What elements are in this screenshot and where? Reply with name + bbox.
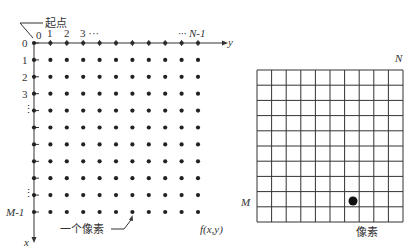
pixel-dot bbox=[32, 92, 36, 96]
m-label: M bbox=[240, 196, 251, 208]
pixel-dot bbox=[48, 159, 52, 163]
pixel-dot bbox=[114, 176, 118, 180]
row-label-2: 2 bbox=[22, 71, 28, 83]
y-axis-label: y bbox=[227, 36, 233, 48]
pixel-dot bbox=[98, 159, 102, 163]
pixel-dot bbox=[147, 193, 151, 197]
pixel-dot bbox=[32, 75, 36, 79]
pixel-dot bbox=[163, 75, 167, 79]
pixel-coordinate-panel: 起点 0 1 2 3 ··· ··· N-1 y x 0 1 2 3 ⋮ ⋮ M… bbox=[5, 17, 233, 248]
pixel-dot bbox=[196, 125, 200, 129]
pixel-dot bbox=[147, 109, 151, 113]
pixel-dot bbox=[180, 92, 184, 96]
pixel-dot bbox=[48, 75, 52, 79]
pixel-dot bbox=[163, 92, 167, 96]
pixel-dot bbox=[65, 58, 69, 62]
pixel-dot bbox=[32, 193, 36, 197]
pixel-dot bbox=[180, 159, 184, 163]
row-label-3: 3 bbox=[22, 88, 28, 100]
pixel-dot bbox=[81, 210, 85, 214]
x-axis-arrow-icon bbox=[32, 237, 37, 243]
pixel-dot bbox=[48, 176, 52, 180]
pixel-dot bbox=[147, 58, 151, 62]
pixel-dot bbox=[81, 193, 85, 197]
pixel-dot bbox=[196, 75, 200, 79]
pixel-dot bbox=[114, 210, 118, 214]
pixel-dot bbox=[81, 92, 85, 96]
image-coordinate-diagram: 起点 0 1 2 3 ··· ··· N-1 y x 0 1 2 3 ⋮ ⋮ M… bbox=[0, 0, 413, 248]
pixel-dot bbox=[98, 193, 102, 197]
pixel-dot bbox=[65, 142, 69, 146]
pixel-dot bbox=[147, 142, 151, 146]
pixel-dot bbox=[180, 125, 184, 129]
pixel-dot bbox=[32, 58, 36, 62]
pixel-dot bbox=[130, 159, 134, 163]
pixel-dot bbox=[114, 193, 118, 197]
pixel-dot bbox=[114, 159, 118, 163]
pixel-dot bbox=[65, 125, 69, 129]
col-label-3: 3 ··· bbox=[80, 27, 99, 39]
pixel-dot bbox=[180, 58, 184, 62]
pixel-dot bbox=[130, 125, 134, 129]
pixel-dot bbox=[147, 176, 151, 180]
pixel-grid-label: 像素 bbox=[356, 226, 378, 239]
pixel-dot bbox=[65, 193, 69, 197]
pixel-dot bbox=[130, 142, 134, 146]
pixel-grid bbox=[257, 70, 403, 222]
pixel-dot bbox=[81, 58, 85, 62]
pixel-dot bbox=[98, 75, 102, 79]
pixel-dot bbox=[98, 92, 102, 96]
row-label-m-1: M-1 bbox=[5, 206, 24, 218]
pixel-dot bbox=[180, 142, 184, 146]
pixel-dot bbox=[196, 176, 200, 180]
pixel-dot bbox=[65, 109, 69, 113]
pixel-dot bbox=[180, 193, 184, 197]
pixel-dot bbox=[48, 210, 52, 214]
pixel-dot bbox=[81, 142, 85, 146]
pixel-dot bbox=[163, 176, 167, 180]
pixel-dot bbox=[163, 109, 167, 113]
pixel-dot bbox=[196, 210, 200, 214]
pixel-dot bbox=[32, 109, 36, 113]
pixel-dot bbox=[130, 92, 134, 96]
pixel-dot bbox=[147, 125, 151, 129]
pixel-dot bbox=[48, 109, 52, 113]
pixel-dot bbox=[81, 109, 85, 113]
pixel-dot bbox=[32, 41, 36, 45]
pixel-dot bbox=[130, 193, 134, 197]
pixel-dot bbox=[114, 58, 118, 62]
pixel-dot bbox=[180, 210, 184, 214]
pixel-dot bbox=[180, 176, 184, 180]
pixel-dot bbox=[196, 193, 200, 197]
pixel-dot bbox=[114, 92, 118, 96]
pixel-dot bbox=[114, 109, 118, 113]
pixel-dot bbox=[196, 109, 200, 113]
pixel-dot bbox=[48, 125, 52, 129]
x-axis-label: x bbox=[23, 236, 29, 248]
pixel-dot bbox=[196, 159, 200, 163]
pixel-dot bbox=[98, 210, 102, 214]
pixel-pointer-line bbox=[111, 220, 131, 229]
pixel-dot bbox=[130, 109, 134, 113]
pixel-dot bbox=[147, 159, 151, 163]
pixel-dot bbox=[65, 210, 69, 214]
pixel-dot bbox=[163, 58, 167, 62]
pixel-dot bbox=[81, 125, 85, 129]
pixel-dot bbox=[81, 75, 85, 79]
pixel-dot bbox=[48, 58, 52, 62]
pixel-dot bbox=[81, 176, 85, 180]
pixel-dot bbox=[32, 176, 36, 180]
pixel-dot-grid bbox=[32, 40, 200, 214]
col-label-0: 0 bbox=[36, 29, 42, 41]
row-label-1: 1 bbox=[22, 54, 28, 66]
highlighted-pixel-dot bbox=[349, 197, 358, 206]
pixel-dot bbox=[114, 75, 118, 79]
pixel-dot bbox=[163, 210, 167, 214]
pixel-dot bbox=[32, 125, 36, 129]
pixel-dot bbox=[65, 159, 69, 163]
pixel-dot bbox=[147, 75, 151, 79]
pixel-dot bbox=[32, 159, 36, 163]
pixel-dot bbox=[163, 193, 167, 197]
pixel-dot bbox=[180, 109, 184, 113]
pixel-dot bbox=[81, 159, 85, 163]
